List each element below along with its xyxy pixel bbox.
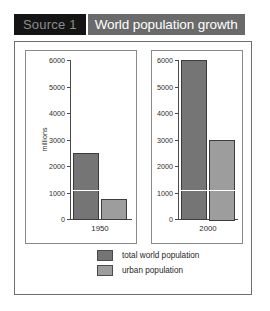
chart-panel: 0100020003000400050006000millions1950 01… (14, 41, 252, 295)
y-axis-tick (67, 140, 71, 141)
y-axis-tick (175, 193, 179, 194)
y-axis-tick (175, 219, 179, 220)
source-label: Source 1 (14, 14, 86, 35)
bar-urban-1950 (101, 199, 127, 220)
chart-panel-1950: 0100020003000400050006000millions1950 (25, 50, 137, 244)
bar-urban-2000 (209, 140, 235, 221)
y-axis-tick (67, 113, 71, 114)
plot-area-2000: 01000200030004000500060002000 (152, 51, 242, 243)
y-axis-tick (67, 166, 71, 167)
y-axis-tick-label: 4000 (33, 109, 65, 118)
legend-label-total: total world population (122, 251, 199, 260)
y-axis-tick (175, 87, 179, 88)
x-axis-tick-label-2000: 2000 (171, 224, 245, 233)
x-axis-tick-label-1950: 1950 (63, 224, 137, 233)
y-axis-tick (175, 140, 179, 141)
y-axis-tick (67, 87, 71, 88)
y-axis-tick (67, 219, 71, 220)
y-axis-tick-label: 1000 (141, 188, 173, 197)
source-header: Source 1 World population growth (14, 14, 245, 35)
y-axis-tick (67, 193, 71, 194)
bar-total-1950 (73, 153, 99, 220)
y-axis-title: millions (40, 119, 49, 159)
plot-area-1950: 0100020003000400050006000millions1950 (26, 51, 136, 243)
legend-swatch-total-icon (97, 250, 113, 261)
y-axis-tick-label: 4000 (141, 109, 173, 118)
y-axis-tick-label: 5000 (141, 82, 173, 91)
charts-container: 0100020003000400050006000millions1950 01… (15, 50, 251, 246)
y-axis-tick (175, 166, 179, 167)
chart-legend: total world population urban population (15, 250, 251, 280)
y-axis-tick-label: 6000 (141, 56, 173, 65)
legend-swatch-urban-icon (97, 265, 113, 276)
y-axis-tick (175, 113, 179, 114)
y-axis-tick-label: 2000 (33, 162, 65, 171)
y-axis-tick-label: 2000 (141, 162, 173, 171)
legend-label-urban: urban population (122, 266, 183, 275)
y-axis-tick-label: 0 (33, 215, 65, 224)
y-axis-tick (67, 60, 71, 61)
y-axis-tick (175, 60, 179, 61)
white-reference-line (181, 190, 235, 191)
legend-item-urban: urban population (15, 265, 251, 276)
y-axis-tick-label: 1000 (33, 188, 65, 197)
y-axis-tick-label: 0 (141, 215, 173, 224)
y-axis-tick-label: 6000 (33, 56, 65, 65)
chart-panel-2000: 01000200030004000500060002000 (151, 50, 243, 244)
bar-total-2000 (181, 60, 207, 220)
y-axis-tick-label: 5000 (33, 82, 65, 91)
y-axis-tick-label: 3000 (33, 135, 65, 144)
legend-item-total: total world population (15, 250, 251, 261)
white-reference-line (73, 190, 127, 191)
chart-title: World population growth (88, 14, 245, 35)
y-axis-tick-label: 3000 (141, 135, 173, 144)
